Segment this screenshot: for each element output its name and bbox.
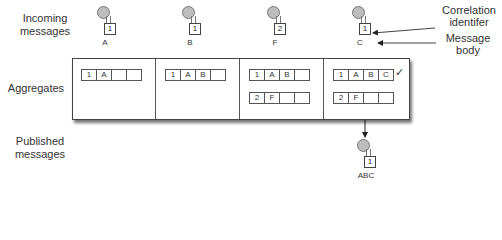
aggregate-1: 1 A B <box>165 69 226 81</box>
aggregates-panel: 1 A 1 A B 1 A B 2 F 1 A B C ✓ 2 F <box>72 58 410 120</box>
agg-cell: F <box>265 93 280 103</box>
agg-cell <box>295 93 309 103</box>
agg-cell: C <box>379 70 393 80</box>
agg-cell: A <box>265 70 280 80</box>
aggregate-1: 1 A <box>81 69 142 81</box>
agg-cell <box>295 70 309 80</box>
correlation-id: 1 <box>364 156 376 168</box>
agg-cell: 1 <box>250 70 265 80</box>
agg-cell <box>379 93 393 103</box>
agg-cell: 2 <box>250 93 265 103</box>
agg-cell: 2 <box>334 93 349 103</box>
aggregate-1-complete: 1 A B C <box>333 69 394 81</box>
agg-cell: B <box>196 70 211 80</box>
divider <box>323 59 324 119</box>
agg-cell <box>127 70 141 80</box>
aggregate-2: 2 F <box>249 92 310 104</box>
agg-cell <box>112 70 127 80</box>
agg-cell: A <box>97 70 112 80</box>
agg-cell: A <box>349 70 364 80</box>
divider <box>239 59 240 119</box>
aggregate-1: 1 A B <box>249 69 310 81</box>
agg-cell: B <box>280 70 295 80</box>
aggregate-2: 2 F <box>333 92 394 104</box>
agg-cell: B <box>364 70 379 80</box>
agg-cell: 1 <box>82 70 97 80</box>
published-message: 1 ABC <box>353 139 383 181</box>
message-body: ABC <box>351 171 381 180</box>
agg-cell: F <box>349 93 364 103</box>
agg-cell <box>280 93 295 103</box>
agg-cell <box>364 93 379 103</box>
divider <box>155 59 156 119</box>
agg-cell <box>211 70 225 80</box>
agg-cell: 1 <box>166 70 181 80</box>
agg-cell: 1 <box>334 70 349 80</box>
checkmark-icon: ✓ <box>395 66 404 79</box>
agg-cell: A <box>181 70 196 80</box>
